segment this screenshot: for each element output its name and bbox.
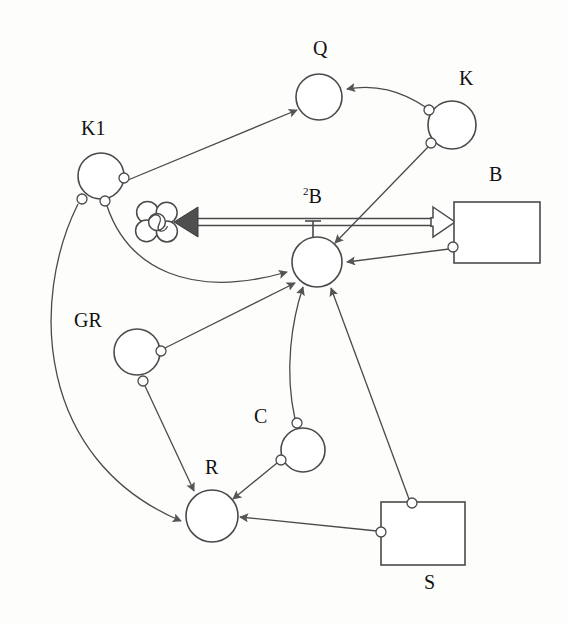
node-label-superscript: 2: [303, 185, 309, 197]
port-k1-bot-right[interactable]: [100, 196, 110, 206]
node-label-c: C: [254, 406, 267, 426]
node-layer: [78, 74, 540, 565]
edge-gr-to-r: [145, 386, 194, 491]
node-label-s: S: [424, 572, 435, 592]
node-c[interactable]: [281, 428, 325, 472]
double-arrow-head-right-open: [431, 207, 455, 237]
cloud-lobe-5-icon: [149, 214, 166, 231]
double-arrow-b-to-cloud: [174, 207, 455, 237]
port-k-top-left[interactable]: [424, 105, 434, 115]
port-s-left[interactable]: [376, 527, 386, 537]
edge-gr-to-2b: [165, 283, 295, 348]
edge-layer: [51, 87, 449, 531]
diagram-canvas: Q K K1 2B B GR C R S: [0, 0, 568, 624]
edge-b-to-2b: [347, 249, 449, 262]
node-s[interactable]: [381, 502, 465, 565]
node-label-2b: 2B: [303, 186, 322, 206]
node-label-k: K: [459, 68, 473, 88]
port-b-left[interactable]: [448, 242, 458, 252]
edge-s-to-r: [240, 517, 377, 531]
node-r[interactable]: [186, 490, 238, 542]
port-gr-right[interactable]: [156, 346, 166, 356]
cloud-node[interactable]: [136, 201, 178, 242]
port-s-top[interactable]: [407, 498, 417, 508]
port-k1-right[interactable]: [119, 173, 129, 183]
node-b[interactable]: [454, 202, 540, 263]
node-label-b: B: [489, 164, 502, 184]
node-label-gr: GR: [74, 310, 102, 330]
edge-k1-to-q: [128, 110, 297, 180]
stem-2b-to-double-line: [305, 221, 321, 238]
node-2b[interactable]: [292, 237, 342, 287]
node-k1[interactable]: [78, 153, 124, 199]
edge-c-to-r: [233, 463, 277, 499]
port-layer: [77, 105, 458, 537]
node-label-k1: K1: [81, 118, 105, 138]
port-gr-bottom[interactable]: [138, 376, 148, 386]
node-label-r: R: [205, 457, 218, 477]
edge-k-to-2b: [335, 147, 428, 243]
port-k1-bot-left[interactable]: [77, 194, 87, 204]
node-q[interactable]: [296, 74, 342, 120]
port-c-bot-left[interactable]: [276, 455, 286, 465]
node-label-q: Q: [313, 38, 327, 58]
node-gr[interactable]: [114, 329, 160, 375]
edge-s-to-2b: [331, 288, 409, 499]
edge-c-to-2b: [290, 287, 303, 419]
port-c-top[interactable]: [292, 418, 302, 428]
edge-k-to-q: [347, 87, 427, 108]
port-k-bot-left[interactable]: [426, 138, 436, 148]
